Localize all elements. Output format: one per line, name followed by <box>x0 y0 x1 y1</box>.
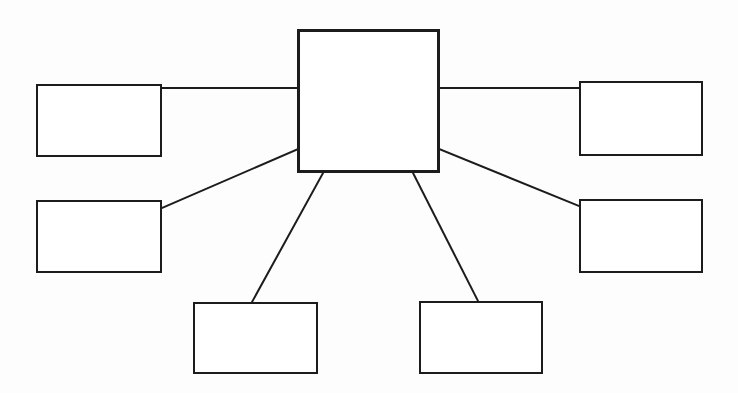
connector-central-to-bottom-right <box>413 173 478 301</box>
connector-central-to-middle-right <box>439 149 579 206</box>
node-bottom-left[interactable] <box>193 302 318 374</box>
connector-central-to-middle-left <box>162 149 298 208</box>
node-bottom-right[interactable] <box>419 301 543 374</box>
node-middle-right[interactable] <box>579 199 703 273</box>
node-middle-left[interactable] <box>36 200 162 273</box>
connector-central-to-bottom-left <box>252 173 323 302</box>
node-top-right[interactable] <box>579 81 703 156</box>
concept-map-canvas <box>0 0 738 393</box>
node-top-left[interactable] <box>36 84 162 157</box>
central-node[interactable] <box>297 29 440 173</box>
